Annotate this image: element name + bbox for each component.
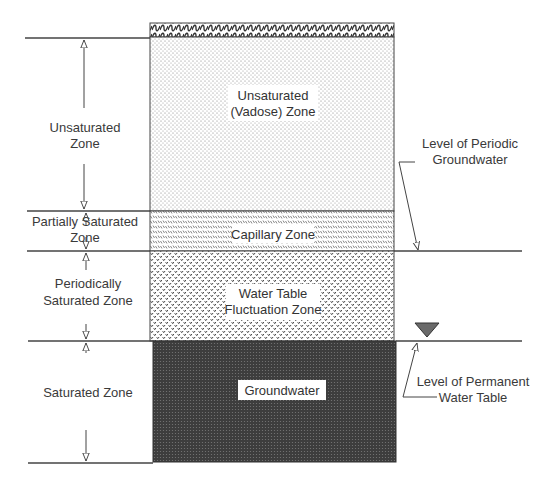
fluctuation-zone-label: Water Table <box>239 286 308 301</box>
partially-saturated-label-2: Zone <box>70 230 100 245</box>
unsaturated-zone-label-2: Zone <box>70 136 100 151</box>
permanent-water-table-label: Level of Permanent <box>417 374 530 389</box>
periodically-saturated-label: Periodically <box>55 276 122 291</box>
fluctuation-zone-label-2: Fluctuation Zone <box>225 302 322 317</box>
unsaturated-zone <box>150 37 394 211</box>
water-table-marker-icon <box>415 323 439 337</box>
periodic-groundwater-leader <box>399 162 418 250</box>
groundwater-zones-diagram: Unsaturated Zone Partially Saturated Zon… <box>0 0 553 486</box>
groundwater-zone <box>153 341 396 462</box>
surface-layer <box>150 23 394 37</box>
partially-saturated-label: Partially Saturated <box>32 214 138 229</box>
periodically-saturated-label-2: Saturated Zone <box>43 293 133 308</box>
permanent-water-table-label-2: Water Table <box>439 390 508 405</box>
periodic-groundwater-label-2: Groundwater <box>432 152 508 167</box>
saturated-zone-label: Saturated Zone <box>43 385 133 400</box>
periodic-groundwater-label: Level of Periodic <box>422 136 519 151</box>
vadose-zone-label: Unsaturated <box>238 88 309 103</box>
capillary-zone-label: Capillary Zone <box>231 227 315 242</box>
vadose-zone-label-2: (Vadose) Zone <box>230 104 315 119</box>
groundwater-label: Groundwater <box>244 383 320 398</box>
unsaturated-zone-label: Unsaturated <box>50 120 121 135</box>
